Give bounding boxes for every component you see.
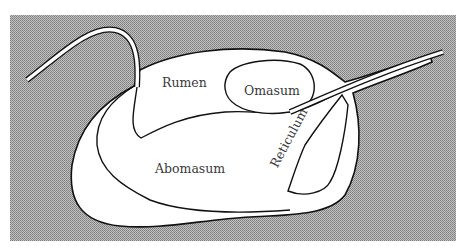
label-abomasum: Abomasum (155, 161, 225, 176)
stomach-diagram: Rumen Omasum Abomasum Reticulum (0, 0, 467, 251)
label-rumen: Rumen (162, 75, 207, 90)
label-omasum: Omasum (244, 83, 300, 98)
diagram-svg (0, 0, 467, 251)
